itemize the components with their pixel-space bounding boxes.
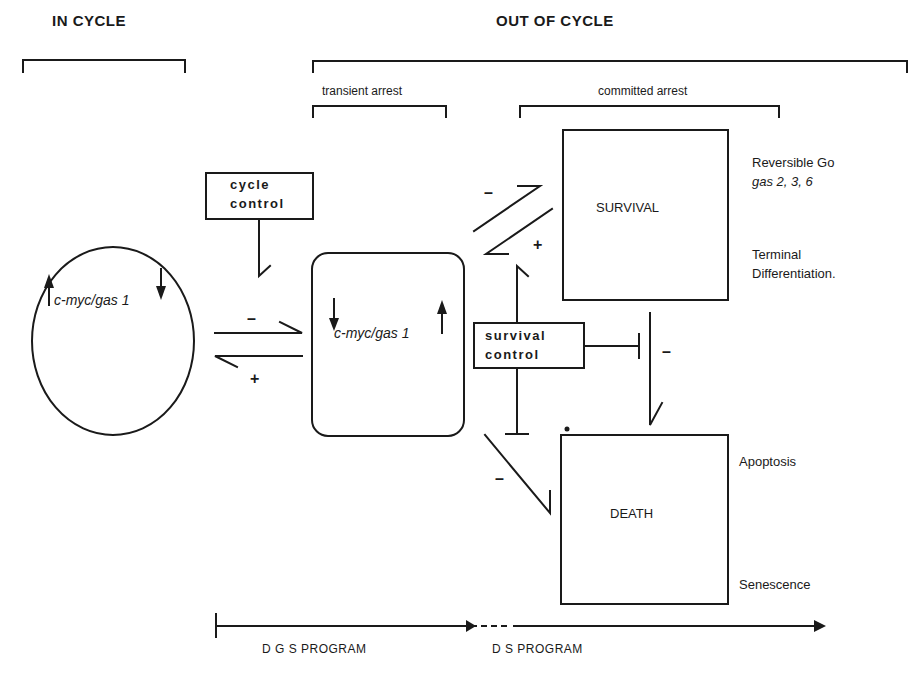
dot-mark (565, 427, 570, 432)
arrest-to-death-sign: – (495, 470, 504, 488)
survival-to-death-sign: – (662, 343, 671, 361)
dgs-program-label: D G S PROGRAM (262, 642, 367, 656)
gas1-up-arrow-icon (437, 300, 447, 314)
cycle-control-label: cycle control (230, 175, 285, 213)
reversible-go-label: Reversible Go (752, 153, 834, 172)
committed-arrest-bracket (520, 106, 779, 117)
gas-genes-wrap: gas 2, 3, 6 (752, 172, 813, 191)
to-survival-lower-sign: + (533, 236, 542, 254)
survival-control-right-inhibit (584, 334, 639, 358)
out-of-cycle-header: OUT OF CYCLE (496, 12, 614, 29)
committed-arrest-label: committed arrest (598, 84, 687, 98)
cycle-control-connector (259, 219, 270, 276)
cycling-cell-shape (32, 247, 194, 435)
reverse-arrow (215, 356, 302, 367)
gas1-down-arrow-icon (156, 286, 166, 300)
survival-control-line1: survival (485, 326, 546, 345)
c-myc-up-arrow-icon (44, 274, 54, 288)
survival-to-death-arrow (650, 313, 662, 425)
survival-control-label: survival control (485, 326, 546, 364)
cycling-cell-gene-label: c-myc/gas 1 (54, 292, 129, 308)
forward-arrow-sign: – (247, 310, 256, 328)
terminal-label: Terminal (752, 245, 801, 264)
senescence-label: Senescence (739, 575, 811, 594)
survival-control-down-inhibit (506, 368, 528, 434)
death-label: DEATH (610, 506, 653, 521)
in-cycle-header: IN CYCLE (52, 12, 126, 29)
dgs-program-line (216, 614, 467, 637)
transient-arrest-label: transient arrest (322, 84, 402, 98)
forward-arrow (215, 322, 302, 333)
ds-arrowhead-icon (814, 620, 826, 632)
differentiation-label: Differentiation. (752, 264, 836, 283)
cycle-control-line1: cycle (230, 175, 285, 194)
survival-box (563, 130, 728, 300)
survival-control-line2: control (485, 345, 546, 364)
gas-genes-label: gas 2, 3, 6 (752, 174, 813, 189)
arrested-cell-shape (312, 253, 464, 436)
reverse-arrow-sign: + (250, 370, 259, 388)
dgs-arrowhead-icon (466, 620, 476, 632)
transient-arrest-bracket (313, 106, 446, 117)
apoptosis-label: Apoptosis (739, 452, 796, 471)
ds-program-label: D S PROGRAM (492, 642, 583, 656)
to-survival-upper-sign: – (484, 184, 493, 202)
survival-label: SURVIVAL (596, 200, 659, 215)
in-cycle-bracket (23, 60, 185, 72)
out-of-cycle-bracket (313, 61, 907, 72)
survival-control-up-connector (517, 266, 528, 323)
arrested-cell-gene-label: c-myc/gas 1 (334, 325, 409, 341)
cycle-control-line2: control (230, 194, 285, 213)
